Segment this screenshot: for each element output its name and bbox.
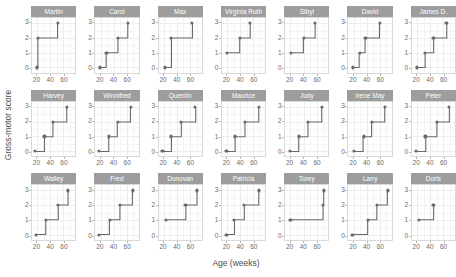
plot-panel — [31, 184, 76, 241]
x-tick-label: 20 — [33, 77, 40, 84]
plot-panel — [158, 101, 203, 158]
facet-strip-label: Patricia — [221, 173, 266, 184]
plot-panel — [31, 101, 76, 158]
x-tick-label: 40 — [47, 77, 54, 84]
x-tick-label: 40 — [300, 77, 307, 84]
facet-strip-label: Irene May — [347, 90, 392, 101]
facet-strip-label: James D. — [411, 6, 456, 17]
plot-panel — [94, 184, 139, 241]
x-axis: 204060 — [284, 157, 329, 170]
x-tick-label: 60 — [60, 77, 67, 84]
step-series — [95, 185, 138, 240]
x-tick-label: 60 — [124, 77, 131, 84]
y-tick-label: 3 — [215, 103, 219, 110]
y-tick-label: 2 — [341, 202, 345, 209]
y-axis: 0123 — [269, 101, 284, 158]
facet-strip-label: Torey — [284, 173, 329, 184]
x-tick-label: 20 — [159, 77, 166, 84]
y-axis: 0123 — [396, 101, 411, 158]
step-line — [166, 190, 197, 220]
y-tick-label: 3 — [405, 186, 409, 193]
y-tick-label: 1 — [151, 133, 155, 140]
x-tick-label: 60 — [187, 160, 194, 167]
y-tick-label: 2 — [341, 34, 345, 41]
step-series — [222, 185, 265, 240]
step-line — [100, 23, 128, 67]
facet-strip-label: David — [347, 6, 392, 17]
x-tick-label: 20 — [96, 244, 103, 251]
facet-strip-label: Walley — [31, 173, 76, 184]
x-tick-label: 40 — [110, 160, 117, 167]
y-tick-label: 3 — [341, 19, 345, 26]
step-series — [95, 102, 138, 157]
x-tick-label: 20 — [349, 160, 356, 167]
y-axis: 0123 — [16, 184, 31, 241]
y-tick-label: 1 — [151, 50, 155, 57]
y-tick-label: 2 — [25, 34, 29, 41]
step-line — [162, 107, 195, 151]
y-tick-label: 0 — [215, 65, 219, 72]
facet-maurice: Maurice0123204060 — [206, 90, 266, 171]
x-tick-label: 60 — [377, 77, 384, 84]
y-axis: 0123 — [143, 101, 158, 158]
step-line — [99, 190, 132, 234]
x-axis: 204060 — [347, 241, 392, 254]
x-tick-label: 60 — [440, 160, 447, 167]
y-axis: 0123 — [396, 17, 411, 74]
y-tick-label: 0 — [341, 149, 345, 156]
y-tick-label: 1 — [215, 50, 219, 57]
x-axis: 204060 — [94, 74, 139, 87]
facet-doris: Doris0123204060 — [396, 173, 456, 254]
y-tick-label: 1 — [215, 217, 219, 224]
x-tick-label: 20 — [286, 160, 293, 167]
y-axis: 0123 — [269, 184, 284, 241]
y-tick-label: 3 — [341, 186, 345, 193]
x-tick-label: 60 — [124, 160, 131, 167]
facet-martin: Martin0123204060 — [16, 6, 76, 87]
step-series — [285, 102, 328, 157]
y-tick-label: 0 — [151, 65, 155, 72]
facet-strip-label: Fred — [94, 173, 139, 184]
plot-panel — [347, 184, 392, 241]
step-series — [222, 102, 265, 157]
y-tick-label: 3 — [88, 103, 92, 110]
y-tick-label: 3 — [25, 186, 29, 193]
y-tick-label: 2 — [405, 118, 409, 125]
y-axis: 0123 — [206, 101, 221, 158]
x-tick-label: 40 — [363, 77, 370, 84]
y-tick-label: 1 — [25, 217, 29, 224]
plot-panel — [284, 17, 329, 74]
step-series — [412, 185, 455, 240]
step-line — [352, 190, 387, 234]
y-tick-label: 0 — [341, 232, 345, 239]
x-tick-label: 60 — [187, 244, 194, 251]
y-axis: 0123 — [143, 184, 158, 241]
y-tick-label: 0 — [88, 65, 92, 72]
plot-panel — [94, 17, 139, 74]
y-axis: 0123 — [332, 184, 347, 241]
step-series — [348, 18, 391, 73]
y-tick-label: 1 — [25, 50, 29, 57]
step-line — [290, 107, 322, 151]
step-line — [37, 23, 58, 67]
chart-root: Gross-motor score Martin0123204060Carol0… — [0, 0, 456, 277]
y-tick-label: 0 — [25, 149, 29, 156]
y-tick-label: 3 — [25, 19, 29, 26]
step-series — [32, 102, 75, 157]
y-tick-label: 0 — [405, 149, 409, 156]
plot-panel — [158, 184, 203, 241]
y-tick-label: 0 — [151, 232, 155, 239]
x-tick-label: 20 — [96, 160, 103, 167]
facet-larry: Larry0123204060 — [332, 173, 392, 254]
step-series — [285, 185, 328, 240]
x-axis: 204060 — [31, 74, 76, 87]
y-tick-label: 1 — [25, 133, 29, 140]
facet-judy: Judy0123204060 — [269, 90, 329, 171]
y-tick-label: 3 — [341, 103, 345, 110]
x-tick-label: 60 — [313, 244, 320, 251]
plot-panel — [284, 184, 329, 241]
y-tick-label: 1 — [151, 217, 155, 224]
y-axis: 0123 — [79, 184, 94, 241]
y-tick-label: 3 — [88, 186, 92, 193]
step-line — [99, 107, 130, 151]
